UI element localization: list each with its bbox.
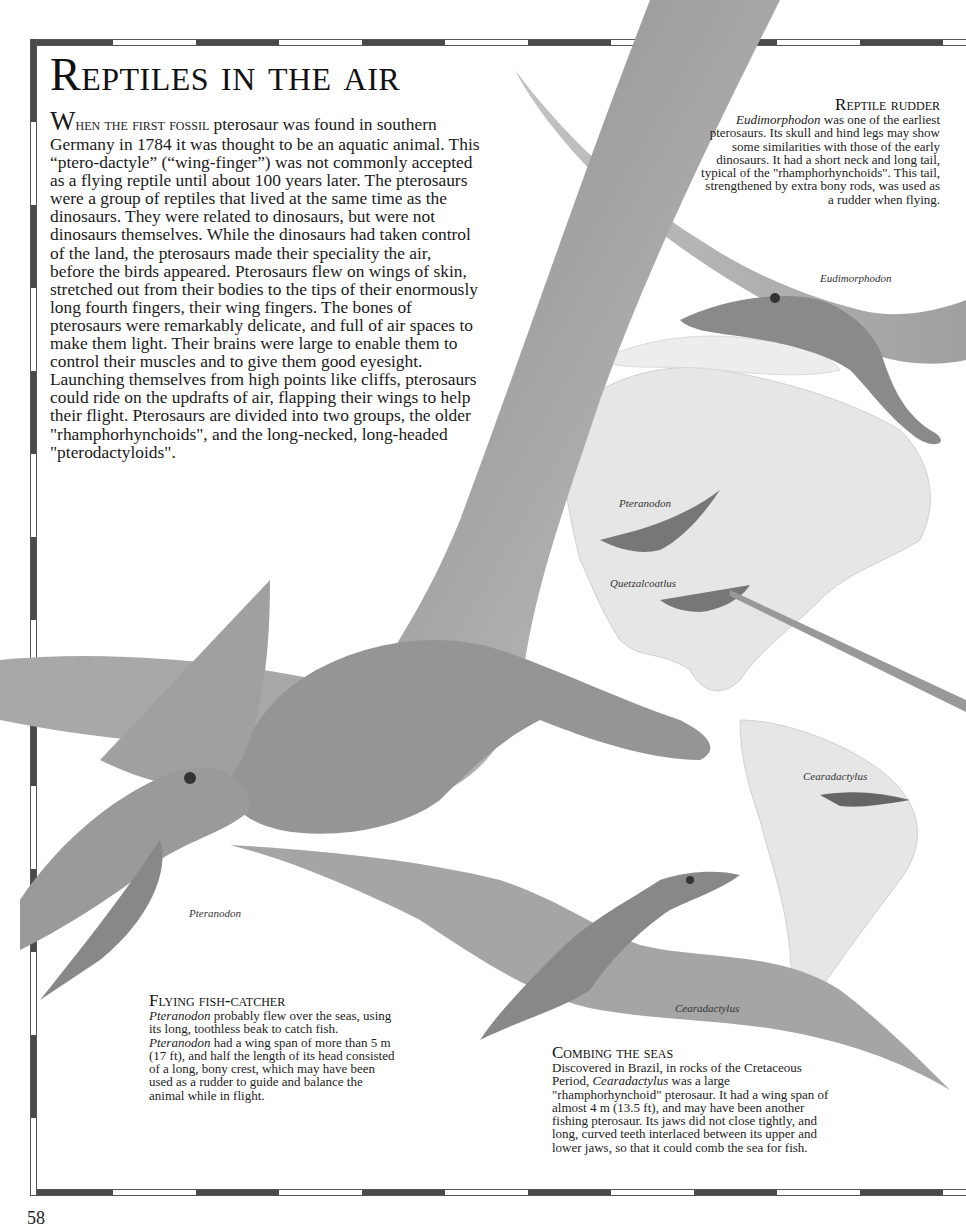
label-pteranodon-main: Pteranodon bbox=[189, 907, 241, 919]
caption-flying-fish-catcher: Flying fish-catcher Pteranodon probably … bbox=[149, 992, 399, 1102]
page-title: Reptiles in the air bbox=[50, 52, 400, 98]
page-number: 58 bbox=[27, 1208, 45, 1228]
caption-title: Flying fish-catcher bbox=[149, 992, 399, 1009]
label-cearadactylus-map: Cearadactylus bbox=[803, 770, 867, 782]
caption-combing-the-seas: Combing the seas Discovered in Brazil, i… bbox=[552, 1044, 842, 1154]
label-cearadactylus-main: Cearadactylus bbox=[675, 1002, 739, 1014]
intro-body: pterosaur was found in southern Germany … bbox=[50, 114, 480, 462]
caption-title: Combing the seas bbox=[552, 1044, 842, 1061]
label-pteranodon-map: Pteranodon bbox=[619, 497, 671, 509]
caption-body: was one of the earliest pterosaurs. Its … bbox=[701, 112, 940, 207]
intro-lead: hen the first fossil bbox=[75, 114, 209, 134]
label-quetzalcoatlus-map: Quetzalcoatlus bbox=[610, 577, 676, 589]
caption-title: Reptile rudder bbox=[700, 96, 940, 113]
drop-cap: W bbox=[50, 106, 75, 136]
label-eudimorphodon: Eudimorphodon bbox=[820, 272, 892, 284]
caption-reptile-rudder: Reptile rudder Eudimorphodon was one of … bbox=[700, 96, 940, 206]
intro-paragraph: When the first fossil pterosaur was foun… bbox=[50, 108, 480, 461]
